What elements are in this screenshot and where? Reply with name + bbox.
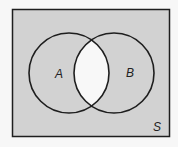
set-a-label: A: [54, 67, 63, 81]
universe-label: S: [153, 120, 161, 134]
set-b-label: B: [126, 66, 134, 80]
venn-diagram: A B S: [0, 0, 178, 147]
